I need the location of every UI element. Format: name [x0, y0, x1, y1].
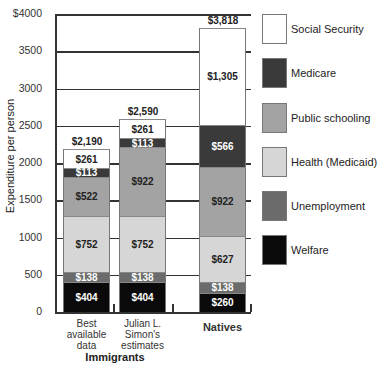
bar-segment: $261 — [119, 119, 166, 138]
bar-1: $404$138$752$922$113$261 — [119, 0, 166, 370]
bar-2: $260$138$627$922$566$1,305 — [199, 0, 246, 370]
x-tick-mark — [250, 304, 252, 312]
bar-segment: $404 — [63, 282, 110, 312]
group-label-immigrants: Immigrants — [55, 351, 175, 363]
bar-segment: $261 — [63, 149, 110, 168]
legend-label: Medicare — [291, 67, 336, 79]
y-tick-label: 3500 — [4, 44, 42, 56]
legend-swatch — [262, 235, 287, 265]
y-tick-label: 500 — [4, 268, 42, 280]
legend-swatch — [262, 14, 287, 44]
legend-swatch — [262, 147, 287, 177]
bar-total-label: $2,190 — [57, 136, 117, 147]
y-tick-label: 0 — [4, 305, 42, 317]
bar-segment: $138 — [63, 272, 110, 282]
bar-segment: $922 — [119, 147, 166, 216]
bar-segment: $260 — [199, 293, 246, 312]
bar-segment: $922 — [199, 167, 246, 236]
legend-label: Health (Medicaid) — [291, 156, 377, 168]
bar-segment: $404 — [119, 282, 166, 312]
legend-label: Social Security — [291, 23, 364, 35]
bar-segment: $522 — [63, 177, 110, 216]
bar-total-label: $2,590 — [113, 106, 173, 117]
bar-segment: $138 — [199, 282, 246, 292]
legend-label: Public schooling — [291, 112, 371, 124]
bar-segment: $752 — [119, 216, 166, 272]
bar-segment: $138 — [119, 272, 166, 282]
y-tick-label: 1500 — [4, 193, 42, 205]
bar-segment: $113 — [119, 138, 166, 146]
bar-segment: $627 — [199, 236, 246, 283]
bar-segment: $1,305 — [199, 28, 246, 125]
x-tick-mark — [113, 304, 115, 312]
legend-label: Unemployment — [291, 200, 365, 212]
category-label: Natives — [189, 322, 256, 333]
x-tick-mark — [172, 304, 174, 312]
bar-segment: $113 — [63, 168, 110, 176]
legend-swatch — [262, 58, 287, 88]
legend-label: Welfare — [291, 244, 329, 256]
bar-segment: $752 — [63, 216, 110, 272]
y-tick-label: 2500 — [4, 119, 42, 131]
y-tick-label: 1000 — [4, 231, 42, 243]
y-tick-label: 2000 — [4, 156, 42, 168]
bar-total-label: $3,818 — [193, 15, 253, 26]
y-tick-label: 3000 — [4, 82, 42, 94]
category-label: Julian L.Simon'sestimates — [109, 318, 176, 351]
bar-0: $404$138$752$522$113$261 — [63, 0, 110, 370]
y-tick-label: $4000 — [4, 7, 42, 19]
legend-swatch — [262, 103, 287, 133]
y-axis — [55, 14, 57, 313]
legend-swatch — [262, 191, 287, 221]
bar-segment: $566 — [199, 125, 246, 167]
